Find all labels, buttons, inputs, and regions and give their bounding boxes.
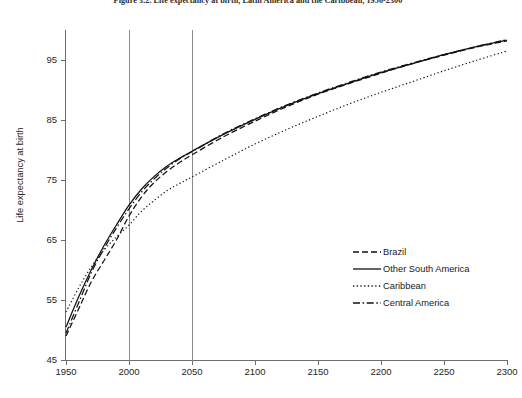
legend-item-other-south-america[interactable]: Other South America: [352, 260, 492, 277]
reference-line-2000: [129, 30, 130, 361]
x-tick-label: 1950: [44, 366, 88, 377]
x-tick-mark: [129, 361, 130, 365]
x-tick-label: 2000: [107, 366, 151, 377]
y-tick-mark: [61, 120, 65, 121]
y-tick-label: 45: [33, 354, 57, 365]
legend-item-brazil[interactable]: Brazil: [352, 243, 492, 260]
x-tick-mark: [66, 361, 67, 365]
x-tick-mark: [381, 361, 382, 365]
y-tick-mark: [61, 180, 65, 181]
x-tick-mark: [192, 361, 193, 365]
y-axis-title: Life expectancy at birth: [15, 119, 25, 231]
legend-label: Central America: [382, 298, 449, 308]
y-tick-label: 95: [33, 54, 57, 65]
y-axis-line: [65, 30, 66, 361]
legend-label: Other South America: [382, 264, 469, 274]
legend-label: Brazil: [382, 247, 406, 257]
figure-title: Figure 3.2. Life expectancy at birth, La…: [0, 0, 516, 6]
chart-legend: BrazilOther South AmericaCaribbeanCentra…: [352, 243, 492, 311]
x-tick-mark: [444, 361, 445, 365]
x-tick-label: 2150: [296, 366, 340, 377]
x-tick-label: 2300: [485, 366, 522, 377]
x-axis-line: [65, 360, 508, 361]
y-tick-label: 75: [33, 174, 57, 185]
y-tick-label: 85: [33, 114, 57, 125]
y-tick-mark: [61, 60, 65, 61]
dotted-line-icon: [352, 281, 382, 291]
legend-item-caribbean[interactable]: Caribbean: [352, 277, 492, 294]
x-tick-label: 2200: [359, 366, 403, 377]
y-tick-label: 65: [33, 234, 57, 245]
dash-dot-line-icon: [352, 298, 382, 308]
y-tick-label: 55: [33, 294, 57, 305]
dashed-line-icon: [352, 247, 382, 257]
x-tick-label: 2250: [422, 366, 466, 377]
solid-line-icon: [352, 264, 382, 274]
y-tick-mark: [61, 300, 65, 301]
legend-item-central-america[interactable]: Central America: [352, 294, 492, 311]
x-tick-mark: [255, 361, 256, 365]
legend-label: Caribbean: [382, 281, 426, 291]
y-tick-mark: [61, 360, 65, 361]
x-tick-label: 2050: [170, 366, 214, 377]
x-tick-mark: [318, 361, 319, 365]
x-tick-mark: [507, 361, 508, 365]
reference-line-2050: [192, 30, 193, 361]
y-tick-mark: [61, 240, 65, 241]
x-tick-label: 2100: [233, 366, 277, 377]
